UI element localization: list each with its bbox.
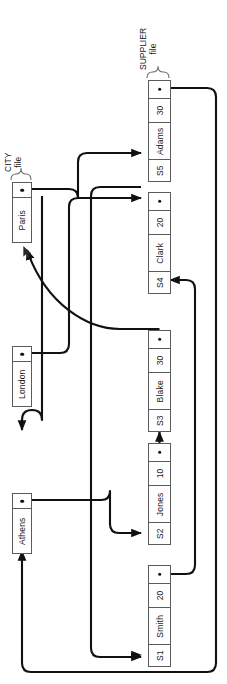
- supplier-record-s5[interactable]: S5 Adams 30: [148, 80, 171, 182]
- wire-s5-to-athens: [22, 88, 216, 672]
- city-name-athens: Athens: [13, 509, 31, 554]
- supplier-pointer-s3[interactable]: [149, 331, 170, 348]
- supplier-record-s1[interactable]: S1 Smith 20: [148, 565, 171, 667]
- connector-layer: [0, 0, 227, 684]
- supplier-status-s1: 20: [149, 583, 170, 608]
- city-name-paris: Paris: [13, 198, 31, 243]
- city-pointer-paris[interactable]: [13, 183, 31, 198]
- wire-paris-to-s5-seg: [32, 153, 141, 198]
- supplier-sname-s5: Adams: [149, 122, 170, 159]
- supplier-pointer-s4[interactable]: [149, 193, 170, 210]
- supplier-snum-s2: S2: [149, 522, 170, 544]
- supplier-status-s2: 10: [149, 461, 170, 486]
- city-label-line2: file: [13, 157, 23, 168]
- supplier-snum-s3: S3: [149, 409, 170, 431]
- supplier-sname-s1: Smith: [149, 607, 170, 644]
- supplier-sname-s3: Blake: [149, 372, 170, 409]
- supplier-record-s4[interactable]: S4 Clark 20: [148, 192, 171, 294]
- city-pointer-athens[interactable]: [13, 494, 31, 509]
- wire-rail-top-join: [91, 187, 141, 196]
- supplier-file-label: SUPPLIER file: [139, 28, 158, 70]
- supplier-record-s3[interactable]: S3 Blake 30: [148, 330, 171, 432]
- supplier-sname-s2: Jones: [149, 485, 170, 522]
- supplier-label-line1: SUPPLIER: [138, 28, 148, 70]
- supplier-pointer-s2[interactable]: [149, 444, 170, 461]
- supplier-snum-s1: S1: [149, 644, 170, 666]
- supplier-record-s2[interactable]: S2 Jones 10: [148, 443, 171, 545]
- city-label-line1: CITY: [3, 153, 13, 172]
- supplier-pointer-s1[interactable]: [149, 566, 170, 583]
- mouse-cursor-icon: [23, 246, 32, 259]
- supplier-status-s5: 30: [149, 98, 170, 123]
- supplier-status-s4: 20: [149, 210, 170, 235]
- city-file-label: CITY file: [4, 153, 23, 172]
- supplier-status-s3: 30: [149, 348, 170, 373]
- city-record-london[interactable]: London: [12, 346, 32, 407]
- wire-athens-to-s2: [32, 491, 141, 533]
- city-record-athens[interactable]: Athens: [12, 493, 32, 554]
- supplier-snum-s4: S4: [149, 271, 170, 293]
- wire-s3-to-paris: [27, 250, 160, 329]
- wire-to-london-pre: [4, 406, 22, 433]
- city-pointer-london[interactable]: [13, 347, 31, 362]
- wire-rail-london-loop: [45, 196, 71, 419]
- diagram-canvas: SUPPLIER file CITY file Paris London Ath…: [0, 0, 227, 684]
- supplier-label-line2: file: [148, 44, 158, 55]
- city-name-london: London: [13, 362, 31, 407]
- city-record-paris[interactable]: Paris: [12, 182, 32, 243]
- wire-rail-to-s2b: [64, 196, 141, 488]
- wire-rail-to-s1: [91, 196, 141, 657]
- supplier-sname-s4: Clark: [149, 234, 170, 271]
- supplier-snum-s5: S5: [149, 159, 170, 181]
- supplier-pointer-s5[interactable]: [149, 81, 170, 98]
